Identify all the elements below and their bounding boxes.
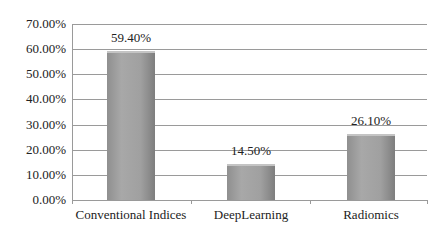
y-tick-label: 20.00% [0,143,66,157]
data-label: 26.10% [321,114,421,128]
gridline [72,24,427,25]
bar [227,164,275,200]
y-axis-line [72,24,73,200]
y-tick-label: 40.00% [0,92,66,106]
y-tick-label: 10.00% [0,168,66,182]
x-tick-mark [191,200,192,204]
x-tick-mark [72,200,73,204]
y-tick-label: 0.00% [0,193,66,207]
bar [107,51,155,200]
x-category-label: Conventional Indices [66,208,196,222]
y-tick-label: 50.00% [0,67,66,81]
x-category-label: DeepLearning [186,208,316,222]
y-tick-label: 30.00% [0,118,66,132]
y-tick-label: 60.00% [0,42,66,56]
data-label: 59.40% [81,31,181,45]
data-label: 14.50% [201,144,301,158]
x-category-label: Radiomics [306,208,436,222]
gridline [72,200,427,201]
bar [347,134,395,200]
x-tick-mark [427,200,428,204]
x-tick-mark [310,200,311,204]
y-tick-label: 70.00% [0,17,66,31]
